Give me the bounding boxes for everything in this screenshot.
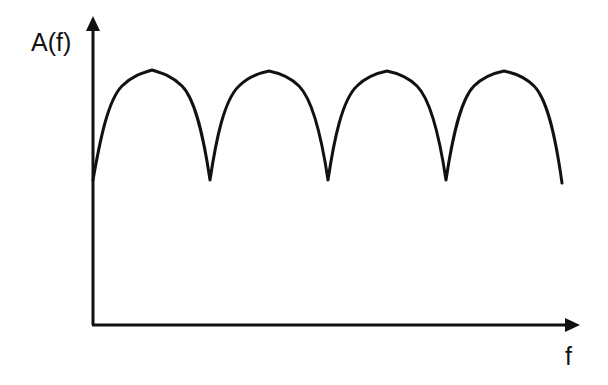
y-axis-arrow-icon <box>86 16 100 31</box>
amplitude-curve <box>93 70 562 183</box>
x-axis-label: f <box>565 342 572 370</box>
diagram-canvas: A(f) f <box>0 0 608 385</box>
y-axis-label: A(f) <box>31 28 71 56</box>
x-axis-arrow-icon <box>565 318 580 332</box>
